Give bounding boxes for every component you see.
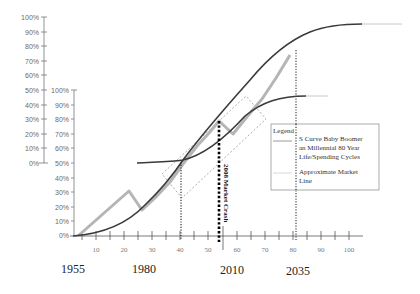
- x-tick-label: 90: [318, 246, 326, 254]
- x-tick-label: 10: [93, 246, 101, 254]
- x-axis: 10 20 30 40 50 60 70 80 90 100 1955 1980…: [61, 226, 363, 278]
- legend-entry-1-line2: an Millennial 80 Year: [299, 144, 360, 152]
- legend: Legend S Curve Baby Boomer an Millennial…: [271, 124, 379, 190]
- x-tick-label: 60: [234, 246, 242, 254]
- year-label-2035: 2035: [286, 264, 310, 278]
- outer-tick-label: 70%: [25, 58, 39, 65]
- outer-tick-label: 0%: [29, 160, 39, 167]
- legend-title: Legend: [273, 127, 294, 135]
- inner-tick-label: 40%: [55, 175, 69, 182]
- crash-annotation: 2008 Market Crash: [222, 164, 230, 222]
- outer-y-axis: 100% 90% 80% 70% 60% 50% 40% 30% 20% 10%…: [21, 14, 48, 167]
- chart-canvas: 100% 90% 80% 70% 60% 50% 40% 30% 20% 10%…: [0, 0, 420, 294]
- outer-tick-label: 20%: [25, 131, 39, 138]
- x-tick-label: 80: [290, 246, 298, 254]
- inner-tick-label: 30%: [55, 189, 69, 196]
- year-label-1955: 1955: [61, 262, 85, 276]
- outer-tick-label: 40%: [25, 102, 39, 109]
- legend-entry-1-line3: Life/Spending Cycles: [299, 153, 360, 161]
- inner-tick-label: 20%: [55, 204, 69, 211]
- outer-tick-label: 50%: [25, 87, 39, 94]
- x-tick-label: 50: [205, 246, 213, 254]
- inner-tick-label: 0%: [59, 232, 69, 239]
- inner-y-axis: 100% 90% 80% 70% 60% 50% 40% 30% 20% 10%…: [51, 87, 77, 240]
- x-tick-label: 20: [121, 246, 129, 254]
- outer-tick-label: 100%: [21, 14, 39, 21]
- inner-tick-label: 80%: [55, 116, 69, 123]
- x-tick-label: 70: [262, 246, 270, 254]
- outer-tick-label: 90%: [25, 29, 39, 36]
- outer-tick-label: 80%: [25, 43, 39, 50]
- legend-entry-2-line2: Line: [299, 177, 312, 185]
- outer-tick-label: 10%: [25, 145, 39, 152]
- year-label-2010: 2010: [220, 263, 244, 277]
- x-tick-label: 40: [177, 246, 185, 254]
- year-label-1980: 1980: [132, 262, 156, 276]
- legend-entry-1-line1: S Curve Baby Boomer: [299, 135, 363, 143]
- inner-tick-label: 60%: [55, 145, 69, 152]
- inner-tick-label: 90%: [55, 102, 69, 109]
- outer-tick-label: 60%: [25, 72, 39, 79]
- inner-tick-label: 70%: [55, 131, 69, 138]
- x-tick-label: 30: [149, 246, 157, 254]
- market-line: [78, 55, 290, 236]
- outer-tick-label: 30%: [25, 116, 39, 123]
- inner-tick-label: 10%: [55, 218, 69, 225]
- x-tick-label: 100: [344, 246, 355, 254]
- inner-tick-label: 100%: [51, 87, 69, 94]
- inner-tick-label: 50%: [55, 160, 69, 167]
- legend-entry-2-line1: Approximate Market: [299, 168, 358, 176]
